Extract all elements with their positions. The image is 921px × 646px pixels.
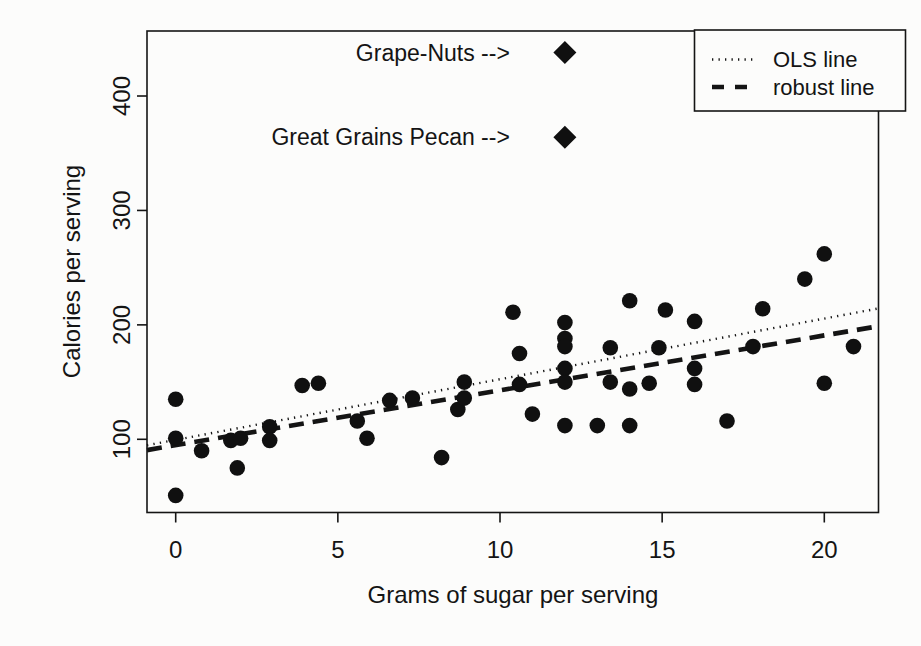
data-point (557, 418, 573, 434)
data-point (719, 413, 735, 429)
data-point (817, 246, 833, 262)
x-tick-label: 20 (811, 536, 838, 563)
y-axis-title: Calories per serving (58, 165, 85, 378)
outlier-annotations: Grape-Nuts -->Great Grains Pecan --> (271, 40, 509, 151)
data-point (590, 418, 606, 434)
data-point (797, 271, 813, 287)
outlier-point (553, 126, 576, 149)
data-point (505, 305, 521, 321)
data-point (350, 413, 366, 429)
data-point (641, 375, 657, 391)
data-point (525, 406, 541, 422)
y-tick-label: 100 (108, 419, 135, 459)
data-point (603, 340, 619, 356)
outlier-markers (553, 41, 576, 149)
calories-vs-sugar-chart: 05101520100200300400 Grape-Nuts -->Great… (0, 0, 921, 646)
data-point (658, 302, 674, 318)
scatterplot-figure: 05101520100200300400 Grape-Nuts -->Great… (0, 0, 921, 646)
outlier-point (553, 41, 576, 64)
scatter-points (168, 246, 861, 503)
data-point (168, 488, 184, 504)
legend-label-ols: OLS line (773, 47, 857, 72)
legend-label-robust: robust line (773, 75, 875, 100)
data-point (262, 433, 278, 449)
y-tick-label: 400 (108, 76, 135, 116)
data-point (230, 460, 246, 476)
data-point (557, 315, 573, 331)
data-point (687, 377, 703, 393)
x-tick-label: 5 (331, 536, 344, 563)
data-point (817, 375, 833, 391)
data-point (846, 339, 862, 355)
data-point (512, 377, 528, 393)
data-point (405, 390, 421, 406)
y-tick-label: 200 (108, 305, 135, 345)
legend: OLS line robust line (695, 30, 906, 111)
data-point (512, 346, 528, 362)
x-tick-label: 15 (649, 536, 676, 563)
data-point (557, 374, 573, 390)
data-point (622, 293, 638, 309)
data-point (168, 430, 184, 446)
ols-line (147, 308, 879, 445)
data-point (687, 314, 703, 330)
y-tick-label: 300 (108, 190, 135, 230)
data-point (557, 339, 573, 355)
data-point (434, 450, 450, 466)
data-point (557, 361, 573, 377)
data-point (457, 374, 473, 390)
outlier-annotation-label: Great Grains Pecan --> (271, 124, 509, 150)
data-point (603, 374, 619, 390)
data-point (745, 339, 761, 355)
outlier-annotation-label: Grape-Nuts --> (356, 40, 510, 66)
data-point (622, 418, 638, 434)
data-point (359, 430, 375, 446)
data-point (194, 443, 210, 459)
data-point (457, 390, 473, 406)
data-point (651, 340, 667, 356)
data-point (168, 391, 184, 407)
data-point (622, 381, 638, 397)
fit-lines (147, 308, 879, 450)
data-point (755, 301, 771, 317)
data-point (294, 378, 310, 394)
data-point (262, 419, 278, 435)
x-tick-label: 10 (487, 536, 514, 563)
x-tick-label: 0 (169, 536, 182, 563)
data-point (233, 430, 249, 446)
x-axis-title: Grams of sugar per serving (368, 581, 659, 608)
data-point (687, 361, 703, 377)
data-point (311, 375, 327, 391)
data-point (382, 393, 398, 409)
